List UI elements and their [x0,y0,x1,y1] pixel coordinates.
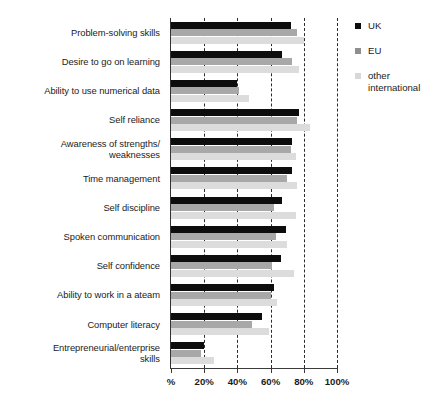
x-tick-label-20: 20% [195,376,214,387]
bar-eu-9 [171,292,271,299]
category-label-10: Computer literacy [0,319,160,330]
x-tick-60 [271,368,272,373]
category-label-2: Ability to use numerical data [0,85,160,96]
category-label-4: Awareness of strengths/ weaknesses [0,138,160,161]
category-label-1: Desire to go on learning [0,56,160,67]
bar-eu-3 [171,117,297,124]
legend-label: UK [368,20,441,32]
category-label-11: Entrepreneurial/enterprise skills [0,342,160,365]
x-tick-100 [337,368,338,373]
bar-uk-1 [171,51,282,58]
bar-uk-10 [171,313,262,320]
category-label-6: Self discipline [0,202,160,213]
bar-eu-6 [171,204,274,211]
legend-label: EU [368,45,441,57]
legend-swatch-icon [355,48,361,54]
bar-eu-4 [171,146,291,153]
x-tick-label-0: % [167,376,176,387]
bar-eu-8 [171,262,272,269]
bar-other-10 [171,328,269,335]
bar-other-1 [171,66,299,73]
bar-uk-7 [171,226,286,233]
bar-uk-2 [171,80,237,87]
bar-eu-0 [171,29,297,36]
bar-other-9 [171,299,277,306]
bar-other-6 [171,212,296,219]
x-tick-20 [204,368,205,373]
plot-area [171,18,337,368]
bar-other-7 [171,241,287,248]
category-label-0: Problem-solving skills [0,27,160,38]
bar-uk-9 [171,284,274,291]
bar-other-4 [171,153,296,160]
bar-eu-11 [171,350,201,357]
x-tick-40 [237,368,238,373]
legend-item-other[interactable]: other international [355,70,441,93]
bar-other-2 [171,95,249,102]
bar-other-0 [171,37,304,44]
bar-eu-1 [171,58,292,65]
chart-legend: UKEUother international [355,20,441,106]
category-label-5: Time management [0,173,160,184]
category-label-8: Self confidence [0,260,160,271]
legend-swatch-icon [355,23,361,29]
legend-item-uk[interactable]: UK [355,20,441,32]
legend-swatch-icon [355,73,361,79]
bar-uk-5 [171,167,292,174]
bar-other-8 [171,270,294,277]
bar-uk-6 [171,197,282,204]
bar-uk-0 [171,22,291,29]
bar-other-11 [171,357,214,364]
category-axis-labels: Problem-solving skillsDesire to go on le… [0,18,166,368]
bar-uk-11 [171,342,204,349]
x-tick-label-40: 40% [228,376,247,387]
x-tick-label-80: 80% [294,376,313,387]
category-label-7: Spoken communication [0,231,160,242]
category-label-3: Self reliance [0,114,160,125]
gridline-80 [304,18,305,368]
legend-label: other international [368,70,441,93]
bar-eu-7 [171,233,276,240]
legend-item-eu[interactable]: EU [355,45,441,57]
gridline-100 [337,18,338,368]
x-tick-label-60: 60% [261,376,280,387]
bar-eu-2 [171,87,239,94]
category-label-9: Ability to work in a ateam [0,289,160,300]
x-tick-label-100: 100% [325,376,350,387]
x-tick-80 [304,368,305,373]
bar-other-3 [171,124,310,131]
bar-chart: Problem-solving skillsDesire to go on le… [0,0,442,407]
bar-eu-5 [171,175,287,182]
bar-uk-3 [171,109,299,116]
x-tick-0 [171,368,172,373]
x-axis-line [170,368,338,369]
bar-uk-8 [171,255,281,262]
bar-eu-10 [171,321,252,328]
bar-uk-4 [171,138,292,145]
bar-other-5 [171,182,297,189]
